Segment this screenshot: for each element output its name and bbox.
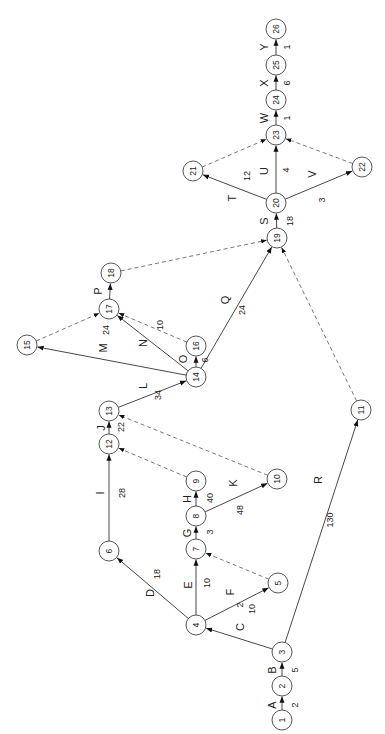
activity-label-i: I bbox=[94, 491, 106, 494]
nodes-layer: 1234567891011121314151617181920212223242… bbox=[17, 19, 372, 730]
activity-arrow-v bbox=[285, 171, 352, 199]
node-number: 20 bbox=[271, 198, 281, 208]
node-number: 4 bbox=[191, 622, 201, 627]
event-node-23: 23 bbox=[266, 125, 286, 145]
event-node-3: 3 bbox=[272, 642, 292, 662]
node-number: 11 bbox=[356, 405, 366, 414]
activity-network-svg: A2B5C10D18E10F2G3H40I28J22K48L34M24NO6PQ… bbox=[0, 0, 385, 734]
activity-duration-w: 1 bbox=[282, 115, 292, 120]
activity-label-l: L bbox=[137, 383, 149, 389]
activity-duration-g: 3 bbox=[205, 529, 215, 534]
activity-label-j: J bbox=[95, 425, 107, 431]
dummy-arrow-9-12 bbox=[119, 448, 187, 477]
activity-label-q: Q bbox=[219, 295, 231, 304]
activity-duration-j: 22 bbox=[116, 422, 126, 432]
dummy-arrow-22-23 bbox=[286, 139, 353, 164]
event-node-20: 20 bbox=[266, 193, 286, 213]
node-number: 25 bbox=[271, 60, 281, 70]
activity-duration-x: 6 bbox=[282, 80, 292, 85]
node-number: 9 bbox=[191, 478, 201, 483]
node-number: 14 bbox=[191, 372, 201, 382]
activity-label-v: V bbox=[306, 170, 318, 178]
node-number: 8 bbox=[191, 513, 201, 518]
node-number: 21 bbox=[188, 166, 198, 176]
event-node-24: 24 bbox=[266, 90, 286, 110]
node-number: 18 bbox=[106, 268, 116, 278]
activity-label-o: O bbox=[177, 354, 189, 363]
event-node-17: 17 bbox=[99, 299, 119, 319]
dummy-arrow-10-13 bbox=[119, 415, 268, 475]
activity-label-y: Y bbox=[258, 43, 270, 51]
activity-label-u: U bbox=[258, 167, 270, 175]
node-number: 16 bbox=[191, 341, 201, 351]
activity-label-d: D bbox=[144, 589, 156, 597]
event-node-18: 18 bbox=[101, 263, 121, 283]
node-number: 5 bbox=[273, 580, 283, 585]
event-node-10: 10 bbox=[267, 469, 287, 489]
event-node-22: 22 bbox=[352, 157, 372, 177]
activity-label-k: K bbox=[227, 479, 239, 487]
dummy-arrow-21-23 bbox=[202, 139, 266, 167]
event-node-6: 6 bbox=[99, 541, 119, 561]
node-number: 19 bbox=[272, 233, 282, 243]
activity-duration-d: 18 bbox=[152, 569, 162, 579]
event-node-5: 5 bbox=[268, 573, 288, 593]
event-node-13: 13 bbox=[99, 401, 119, 421]
activity-label-m: M bbox=[97, 343, 109, 352]
event-node-14: 14 bbox=[186, 367, 206, 387]
activity-label-x: X bbox=[258, 79, 270, 87]
activity-label-w: W bbox=[258, 112, 270, 123]
activity-duration-s: 18 bbox=[285, 216, 295, 226]
event-node-7: 7 bbox=[186, 539, 206, 559]
event-node-15: 15 bbox=[17, 335, 37, 355]
activity-arrow-r bbox=[285, 420, 358, 643]
event-node-26: 26 bbox=[266, 19, 286, 39]
activity-label-b: B bbox=[266, 666, 278, 673]
event-node-8: 8 bbox=[186, 506, 206, 526]
activity-duration-i: 28 bbox=[117, 488, 127, 498]
activity-duration-c: 10 bbox=[247, 604, 257, 614]
activity-label-a: A bbox=[266, 701, 278, 709]
activity-duration-l: 34 bbox=[153, 390, 163, 400]
activity-duration-t: 12 bbox=[242, 171, 252, 181]
node-number: 6 bbox=[104, 548, 114, 553]
event-node-9: 9 bbox=[186, 471, 206, 491]
event-node-2: 2 bbox=[272, 676, 292, 696]
dummy-arrow-5-7 bbox=[206, 553, 269, 579]
event-node-1: 1 bbox=[272, 710, 292, 730]
activity-duration-m: 24 bbox=[101, 325, 111, 335]
node-number: 7 bbox=[191, 546, 201, 551]
network-diagram: A2B5C10D18E10F2G3H40I28J22K48L34M24NO6PQ… bbox=[0, 0, 385, 734]
labels-layer: A2B5C10D18E10F2G3H40I28J22K48L34M24NO6PQ… bbox=[92, 43, 335, 709]
activity-label-g: G bbox=[181, 529, 193, 538]
node-number: 22 bbox=[357, 162, 367, 172]
dummy-arrow-11-19 bbox=[282, 247, 357, 401]
event-node-11: 11 bbox=[351, 400, 371, 420]
activity-label-f: F bbox=[224, 588, 236, 595]
event-node-19: 19 bbox=[267, 228, 287, 248]
event-node-25: 25 bbox=[266, 55, 286, 75]
node-number: 3 bbox=[277, 649, 287, 654]
event-node-4: 4 bbox=[186, 615, 206, 635]
node-number: 12 bbox=[104, 439, 114, 449]
activity-label-r: R bbox=[312, 476, 324, 484]
activity-arrow-m bbox=[37, 347, 186, 375]
activity-label-t: T bbox=[226, 194, 238, 201]
node-number: 26 bbox=[271, 24, 281, 34]
dummy-arrow-18-19 bbox=[121, 240, 267, 271]
activity-label-p: P bbox=[92, 287, 104, 294]
dummy-arrow-16-17 bbox=[119, 313, 187, 342]
activity-label-s: S bbox=[258, 217, 270, 224]
event-node-12: 12 bbox=[99, 434, 119, 454]
activity-duration-h: 40 bbox=[205, 493, 215, 503]
activity-label-n: N bbox=[137, 339, 149, 347]
activity-label-e: E bbox=[182, 581, 194, 588]
activity-duration-f: 2 bbox=[235, 602, 245, 607]
dummy-duration-16-17: 10 bbox=[155, 320, 165, 330]
node-number: 10 bbox=[272, 474, 282, 484]
node-number: 1 bbox=[277, 717, 287, 722]
activity-label-h: H bbox=[181, 495, 193, 503]
event-node-21: 21 bbox=[183, 161, 203, 181]
event-node-16: 16 bbox=[186, 336, 206, 356]
node-number: 24 bbox=[271, 95, 281, 105]
